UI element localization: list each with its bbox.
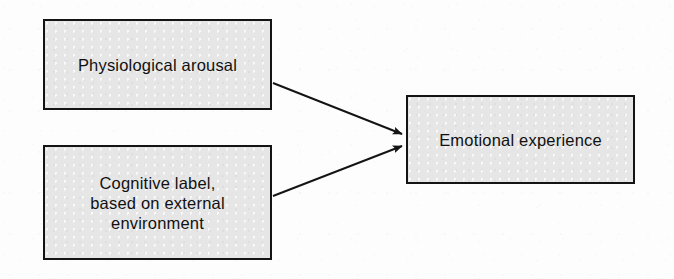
node-cognitive-label-text: Cognitive label, based on external envir…	[84, 173, 231, 233]
node-physiological-arousal-label: Physiological arousal	[72, 55, 243, 75]
diagram-canvas: Physiological arousal Cognitive label, b…	[0, 0, 674, 279]
node-emotional-experience-label: Emotional experience	[433, 130, 608, 150]
node-cognitive-label[interactable]: Cognitive label, based on external envir…	[43, 145, 272, 260]
node-physiological-arousal[interactable]: Physiological arousal	[43, 19, 272, 110]
edge-arousal-to-emotion	[273, 83, 402, 134]
node-emotional-experience[interactable]: Emotional experience	[406, 95, 635, 184]
edge-cognitive-to-emotion	[273, 146, 402, 196]
